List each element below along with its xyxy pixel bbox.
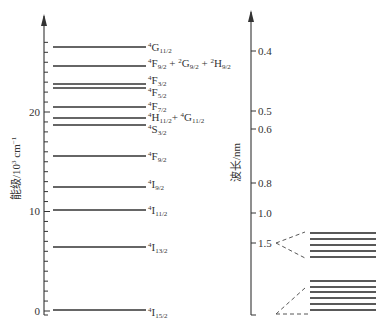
right-tick-label: 0.6 xyxy=(258,123,272,135)
right-tick-label: 0.8 xyxy=(258,177,272,189)
left-tick-label: 10 xyxy=(29,205,41,217)
right-axis-ticks: 0.40.50.60.81.01.5 xyxy=(251,45,272,249)
right-axis-title: 波长/nm xyxy=(230,142,242,182)
level-label-4I13-2: 4I13/2 xyxy=(148,241,168,255)
stark-connectors xyxy=(276,232,308,314)
connector-lower-diag xyxy=(276,288,305,314)
level-labels: 4G11/2 4F9/2 + 2G9/2 + 2H9/2 4F3/2 4F5/2… xyxy=(148,41,231,320)
left-axis: 01020 能级/103 cm−1 xyxy=(9,14,50,317)
level-label-4S3-2: 4S3/2 xyxy=(148,123,167,137)
level-label-4I15-2: 4I15/2 xyxy=(148,306,168,320)
left-axis-minor-ticks xyxy=(44,42,50,311)
energy-level-diagram: 01020 能级/103 cm−1 4G11/2 4F9/2 + 2G9/2 +… xyxy=(0,0,381,329)
level-label-4I11-2: 4I11/2 xyxy=(148,204,168,218)
connector-upper-top xyxy=(276,232,305,243)
left-tick-label: 20 xyxy=(29,106,41,118)
left-axis-title: 能级/103 cm−1 xyxy=(9,136,22,200)
right-tick-label: 0.4 xyxy=(258,45,272,57)
connector-upper-bottom xyxy=(276,243,305,258)
level-label-4I9-2: 4I9/2 xyxy=(148,178,165,192)
right-tick-label: 0.5 xyxy=(258,105,272,117)
left-axis-tick-labels: 01020 xyxy=(29,106,41,317)
left-axis-arrow-icon xyxy=(41,14,47,26)
right-axis-arrow-icon xyxy=(248,10,254,22)
left-tick-label: 0 xyxy=(35,305,41,317)
right-tick-label: 1.5 xyxy=(258,237,272,249)
energy-levels xyxy=(53,47,146,310)
stark-split-levels xyxy=(310,233,376,310)
level-label-4F9-2-2G9-2-2H9-2: 4F9/2 + 2G9/2 + 2H9/2 xyxy=(148,57,231,71)
level-label-4G11-2: 4G11/2 xyxy=(148,41,172,55)
right-tick-label: 1.0 xyxy=(258,207,272,219)
level-label-4F5-2: 4F5/2 xyxy=(148,86,167,100)
level-label-4F9-2: 4F9/2 xyxy=(148,150,167,164)
right-axis: 0.40.50.60.81.01.5 波长/nm xyxy=(230,10,272,315)
